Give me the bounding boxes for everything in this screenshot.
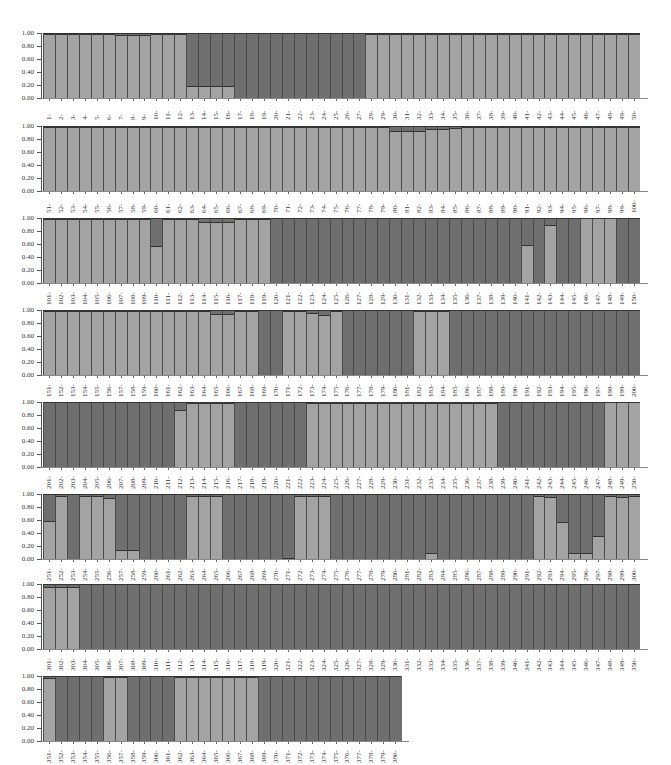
x-tick-label: 38-: [487, 111, 495, 120]
individual-bar: [449, 310, 461, 375]
individual-bar: [377, 676, 389, 741]
individual-bar: [91, 33, 103, 98]
individual-bar: [55, 33, 67, 98]
x-tick-label: 363-: [188, 750, 196, 763]
individual-bar: [401, 218, 413, 283]
cluster1-segment: [140, 127, 151, 191]
individual-bar: [509, 218, 521, 283]
x-tick-label: 40-: [511, 111, 519, 120]
y-tick-label: 0.20: [0, 266, 34, 274]
individual-bar: [270, 402, 282, 467]
x-tick-label: 358-: [129, 750, 137, 763]
cluster1-segment: [199, 86, 210, 98]
y-tick-label: 0.20: [0, 358, 34, 366]
segment-divider: [128, 550, 139, 551]
individual-bar: [401, 584, 413, 649]
individual-bar: [198, 33, 210, 98]
cluster1-segment: [426, 34, 437, 98]
x-tick-label: 370-: [272, 750, 280, 763]
individual-bar: [389, 402, 401, 467]
segment-divider: [247, 127, 258, 128]
cluster1-segment: [462, 34, 473, 98]
individual-bar: [342, 310, 354, 375]
individual-bar: [150, 126, 162, 191]
individual-bar: [521, 126, 533, 191]
individual-bar: [533, 402, 545, 467]
individual-bar: [67, 494, 79, 559]
individual-bar: [365, 126, 377, 191]
individual-bar: [425, 126, 437, 191]
individual-bar: [437, 33, 449, 98]
individual-bar: [210, 218, 222, 283]
y-tick-label: 0.00: [0, 737, 34, 745]
y-tick-label: 0.60: [0, 55, 34, 63]
cluster1-segment: [235, 677, 246, 741]
cluster1-segment: [450, 128, 461, 191]
individual-bar: [318, 33, 330, 98]
segment-divider: [80, 496, 91, 497]
x-tick-label: 39-: [499, 111, 507, 120]
individual-bar: [473, 218, 485, 283]
x-tick-label: 44-: [558, 111, 566, 120]
individual-bar: [174, 584, 186, 649]
individual-bar: [592, 402, 604, 467]
individual-bar: [139, 126, 151, 191]
cluster1-segment: [44, 219, 55, 283]
cluster1-segment: [557, 522, 568, 559]
individual-bar: [485, 584, 497, 649]
x-tick-label: 31-: [403, 111, 411, 120]
individual-bar: [425, 310, 437, 375]
x-tick-label: 30-: [391, 111, 399, 120]
individual-bar: [43, 126, 55, 191]
individual-bar: [485, 218, 497, 283]
individual-bar: [270, 126, 282, 191]
cluster1-segment: [223, 677, 234, 741]
cluster1-segment: [426, 311, 437, 375]
individual-bar: [186, 310, 198, 375]
cluster1-segment: [223, 403, 234, 467]
y-tick-label: 0.00: [0, 645, 34, 653]
individual-bar: [556, 310, 568, 375]
segment-divider: [390, 131, 401, 132]
cluster1-segment: [104, 311, 115, 375]
individual-bar: [353, 218, 365, 283]
individual-bar: [294, 402, 306, 467]
individual-bar: [342, 584, 354, 649]
cluster1-segment: [68, 587, 79, 649]
segment-divider: [44, 587, 55, 588]
cluster1-segment: [163, 219, 174, 283]
cluster1-segment: [211, 496, 222, 559]
y-tick-label: 0.80: [0, 503, 34, 511]
y-tick-label: 1.00: [0, 306, 34, 314]
y-tick-label: 0.80: [0, 411, 34, 419]
individual-bar: [91, 126, 103, 191]
x-tick-label: 379-: [379, 750, 387, 763]
y-tick-label: 0.00: [0, 279, 34, 287]
individual-bar: [270, 494, 282, 559]
cluster1-segment: [44, 311, 55, 375]
x-tick-label: 376-: [343, 750, 351, 763]
segment-divider: [307, 496, 318, 497]
segment-divider: [199, 86, 210, 87]
cluster1-segment: [235, 311, 246, 375]
y-tick-label: 0.00: [0, 187, 34, 195]
individual-bar: [306, 402, 318, 467]
segment-divider: [438, 129, 449, 130]
individual-bar: [628, 126, 640, 191]
individual-bar: [234, 126, 246, 191]
cluster1-segment: [128, 127, 139, 191]
cluster1-segment: [92, 127, 103, 191]
cluster1-segment: [450, 34, 461, 98]
segment-divider: [474, 403, 485, 404]
segment-divider: [140, 311, 151, 312]
plot-top-border: [43, 218, 640, 219]
cluster1-segment: [92, 219, 103, 283]
x-axis: [41, 467, 648, 468]
y-tick-label: 0.60: [0, 606, 34, 614]
individual-bar: [509, 402, 521, 467]
cluster1-segment: [80, 127, 91, 191]
segment-divider: [271, 127, 282, 128]
cluster1-segment: [617, 127, 628, 191]
individual-bar: [222, 584, 234, 649]
individual-bar: [389, 33, 401, 98]
